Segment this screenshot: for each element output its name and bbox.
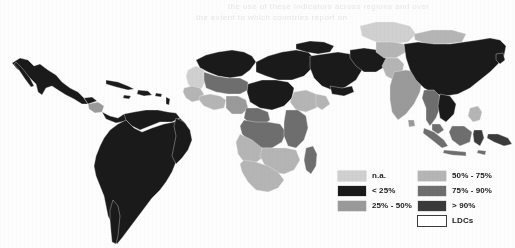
country-west-africa-coast xyxy=(199,94,226,110)
country-chad-sudan xyxy=(247,80,294,110)
legend-swatch xyxy=(418,171,446,181)
region-latin-america xyxy=(12,58,192,244)
legend-swatch xyxy=(418,216,446,226)
island-timor xyxy=(477,150,486,155)
legend-item-n-a[interactable]: n.a. xyxy=(338,170,412,181)
island-sulawesi xyxy=(473,130,484,146)
country-jamaica xyxy=(123,95,131,99)
legend-swatch xyxy=(418,201,446,211)
country-vietnam-laos xyxy=(438,94,456,122)
legend-swatch xyxy=(338,186,366,196)
legend-swatch xyxy=(338,201,366,211)
legend-swatch xyxy=(418,186,446,196)
legend-label: < 25% xyxy=(372,186,395,195)
country-honduras-nicaragua xyxy=(88,102,104,113)
legend-label: 50% - 75% xyxy=(452,171,492,180)
country-nigeria xyxy=(226,96,248,114)
country-kenya-tanzania xyxy=(284,110,308,148)
region-south-america xyxy=(94,118,190,244)
legend-label: 75% - 90% xyxy=(452,186,492,195)
country-sri-lanka xyxy=(408,120,415,127)
country-libya-egypt xyxy=(256,50,314,80)
country-philippines xyxy=(468,106,482,122)
legend-item-ldcs[interactable]: LDCs xyxy=(418,215,492,226)
legend-item-75-90[interactable]: 75% - 90% xyxy=(418,185,492,196)
map-legend: n.a.< 25%25% - 50%50% - 75%75% - 90%> 90… xyxy=(338,170,510,226)
legend-item-25[interactable]: < 25% xyxy=(338,185,412,196)
country-kazakhstan xyxy=(360,22,416,44)
country-mexico xyxy=(12,58,88,104)
country-brazil-bulge xyxy=(172,118,192,164)
region-asia xyxy=(296,22,512,156)
legend-item-50-75[interactable]: 50% - 75% xyxy=(418,170,492,181)
island-borneo xyxy=(449,126,472,146)
country-cuba xyxy=(106,80,134,90)
legend-swatch xyxy=(338,171,366,181)
legend-label: LDCs xyxy=(452,216,473,225)
legend-item-90[interactable]: > 90% xyxy=(418,200,492,211)
country-mauritania xyxy=(186,66,206,90)
legend-column-2: 50% - 75%75% - 90%> 90%LDCs xyxy=(418,170,492,226)
country-hispaniola xyxy=(137,90,152,96)
legend-item-25-50[interactable]: 25% - 50% xyxy=(338,200,412,211)
country-puerto-rico xyxy=(155,93,162,97)
legend-column-1: n.a.< 25%25% - 50% xyxy=(338,170,412,226)
country-myanmar-thailand xyxy=(422,90,440,126)
country-lesser-antilles xyxy=(166,97,170,105)
country-somalia xyxy=(316,94,330,110)
legend-label: n.a. xyxy=(372,171,386,180)
region-africa xyxy=(183,50,330,192)
country-mongolia xyxy=(414,30,466,44)
legend-label: > 90% xyxy=(452,201,475,210)
island-papua-new-guinea xyxy=(487,134,512,146)
island-java xyxy=(443,150,466,156)
country-madagascar xyxy=(304,146,317,174)
legend-label: 25% - 50% xyxy=(372,201,412,210)
